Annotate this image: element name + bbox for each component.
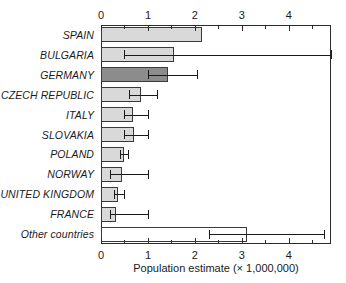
category-label: BULGARIA (40, 49, 94, 61)
x-tick-minor (265, 240, 266, 244)
x-tick-major (242, 238, 243, 244)
bar (101, 27, 202, 42)
population-estimate-bar-chart: SPAINBULGARIAGERMANYCZECH REPUBLICITALYS… (0, 0, 346, 283)
error-bar-cap-high (128, 150, 129, 159)
error-bar-line (124, 115, 147, 116)
x-tick-major (101, 238, 102, 244)
x-tick-label: 2 (192, 9, 198, 21)
x-tick-label: 2 (192, 249, 198, 261)
error-bar-cap-low (124, 110, 125, 119)
x-tick-label: 3 (239, 249, 245, 261)
error-bar-cap-high (157, 90, 158, 99)
x-tick-major (195, 25, 196, 31)
error-bar-cap-low (124, 130, 125, 139)
x-tick-label: 1 (145, 249, 151, 261)
error-bar-cap-low (120, 150, 121, 159)
x-tick-major (289, 25, 290, 31)
x-tick-label: 4 (286, 9, 292, 21)
error-bar-line (110, 214, 148, 215)
x-tick-major (289, 238, 290, 244)
x-tick-label: 4 (286, 249, 292, 261)
category-axis-labels: SPAINBULGARIAGERMANYCZECH REPUBLICITALYS… (0, 25, 98, 244)
x-tick-major (148, 238, 149, 244)
category-label: SLOVAKIA (42, 129, 94, 141)
error-bar-cap-low (209, 230, 210, 239)
error-bar-line (124, 135, 147, 136)
x-tick-label: 0 (98, 249, 104, 261)
bars-layer (101, 25, 331, 244)
error-bar-cap-high (148, 210, 149, 219)
x-tick-major (101, 25, 102, 31)
x-tick-minor (265, 25, 266, 29)
category-label: Other countries (21, 228, 94, 240)
error-bar-cap-low (124, 50, 125, 59)
x-tick-minor (218, 240, 219, 244)
x-tick-minor (124, 25, 125, 29)
error-bar-cap-high (197, 70, 198, 79)
x-tick-minor (218, 25, 219, 29)
error-bar-line (209, 234, 324, 235)
error-bar-cap-high (148, 110, 149, 119)
error-bar-cap-low (114, 190, 115, 199)
error-bar-line (114, 194, 124, 195)
error-bar-cap-high (148, 170, 149, 179)
x-tick-label: 3 (239, 9, 245, 21)
error-bar-line (148, 75, 197, 76)
category-label: UNITED KINGDOM (0, 188, 94, 200)
x-tick-major (195, 238, 196, 244)
x-axis-title: Population estimate (× 1,000,000) (101, 262, 331, 274)
x-tick-minor (124, 240, 125, 244)
error-bar-line (124, 55, 331, 56)
x-tick-minor (312, 25, 313, 29)
error-bar-cap-high (331, 50, 332, 59)
category-label: FRANCE (50, 208, 94, 220)
x-tick-major (148, 25, 149, 31)
error-bar-cap-high (124, 190, 125, 199)
category-label: NORWAY (47, 168, 94, 180)
category-label: GERMANY (40, 69, 94, 81)
category-label: POLAND (50, 148, 94, 160)
error-bar-line (120, 154, 128, 155)
error-bar-cap-low (148, 70, 149, 79)
x-tick-minor (171, 240, 172, 244)
error-bar-cap-high (324, 230, 325, 239)
category-label: CZECH REPUBLIC (1, 89, 94, 101)
x-tick-major (242, 25, 243, 31)
category-label: SPAIN (63, 29, 94, 41)
category-label: ITALY (66, 109, 94, 121)
error-bar-cap-low (110, 170, 111, 179)
x-tick-label: 0 (98, 9, 104, 21)
x-tick-minor (171, 25, 172, 29)
error-bar-line (110, 174, 148, 175)
error-bar-cap-low (110, 210, 111, 219)
x-tick-label: 1 (145, 9, 151, 21)
x-tick-minor (312, 240, 313, 244)
error-bar-line (129, 95, 157, 96)
error-bar-cap-low (129, 90, 130, 99)
error-bar-cap-high (148, 130, 149, 139)
